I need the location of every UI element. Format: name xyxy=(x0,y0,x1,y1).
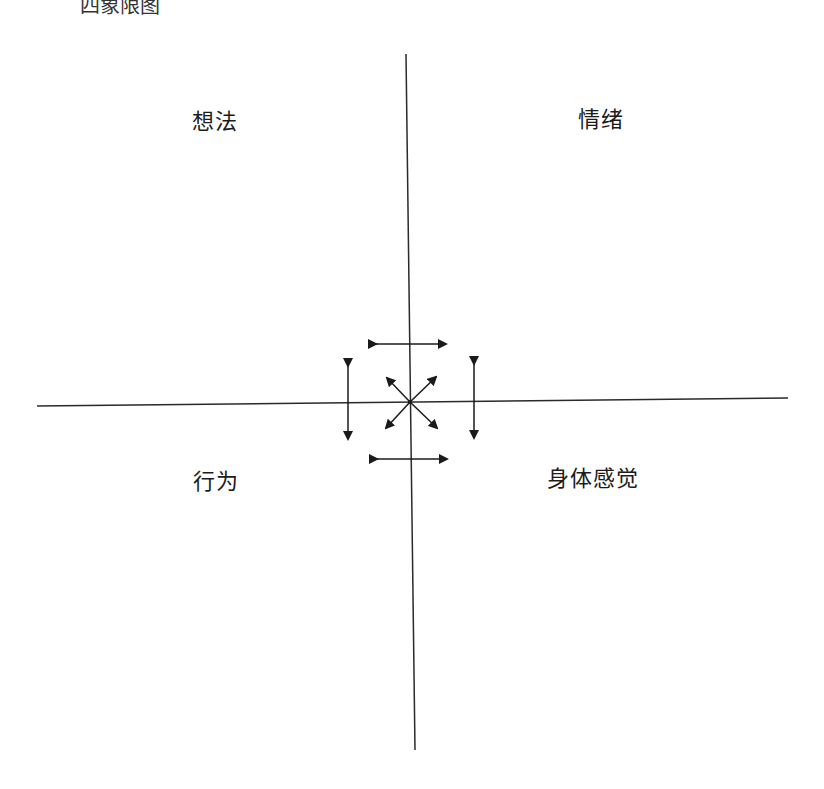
quadrant-label-body-sensations: 身体感觉 xyxy=(547,460,639,492)
quadrant-label-behavior: 行为 xyxy=(193,463,239,495)
quadrant-label-thoughts: 想法 xyxy=(192,103,238,135)
quadrant-label-emotions: 情绪 xyxy=(578,101,624,133)
quadrant-diagram xyxy=(0,0,824,789)
